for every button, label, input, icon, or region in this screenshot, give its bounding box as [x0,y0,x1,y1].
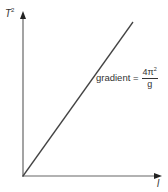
x-axis [22,173,162,179]
graph-diagram: T2 l gradient = 4π2 g [0,0,168,192]
gradient-annotation: gradient = 4π2 g [96,64,158,90]
x-axis-label: l [157,178,159,189]
y-axis-arrow-icon [20,11,26,19]
fraction-numerator: 4π2 [142,64,158,79]
fraction-denominator: g [147,79,152,90]
gradient-line [23,22,133,176]
gradient-prefix: gradient = [96,72,139,83]
y-axis-label: T2 [5,8,14,19]
gradient-fraction: 4π2 g [142,64,158,90]
y-axis-label-power: 2 [11,7,14,13]
graph-svg [0,0,168,192]
numerator-power: 2 [154,66,157,72]
numerator-text: 4π [143,67,154,77]
y-axis [20,11,26,177]
